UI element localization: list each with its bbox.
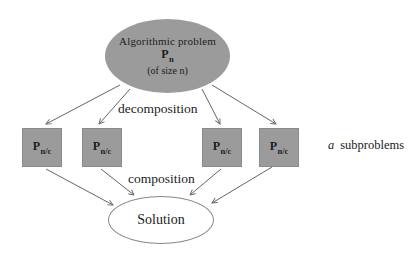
subproblem-node-1: Pn/c bbox=[22, 128, 62, 167]
subproblem-symbol-subscript: n/c bbox=[220, 146, 231, 156]
algorithmic-problem-node: Algorithmic problem Pn (of size n) bbox=[105, 19, 230, 93]
decomposition-arrow-3 bbox=[202, 89, 220, 124]
composition-arrow-4 bbox=[212, 167, 272, 203]
decomposition-label: decomposition bbox=[118, 101, 198, 117]
problem-title: Algorithmic problem bbox=[119, 36, 216, 48]
problem-size-note: (of size n) bbox=[147, 66, 188, 77]
divide-and-conquer-diagram: Algorithmic problem Pn (of size n) decom… bbox=[0, 0, 416, 256]
subproblem-count-text: subproblems bbox=[340, 138, 404, 152]
subproblem-symbol: Pn/c bbox=[270, 140, 289, 156]
composition-arrow-1 bbox=[46, 169, 113, 205]
subproblem-symbol: Pn/c bbox=[213, 140, 232, 156]
subproblem-symbol-subscript: n/c bbox=[40, 146, 51, 156]
decomposition-arrow-1 bbox=[46, 85, 120, 124]
subproblem-node-4: Pn/c bbox=[259, 128, 299, 167]
subproblem-node-2: Pn/c bbox=[82, 128, 122, 167]
subproblem-symbol-subscript: n/c bbox=[277, 146, 288, 156]
subproblem-symbol: Pn/c bbox=[33, 140, 52, 156]
problem-symbol: Pn bbox=[161, 48, 174, 64]
subproblem-symbol-subscript: n/c bbox=[100, 146, 111, 156]
subproblem-count-note: asubproblems bbox=[328, 138, 404, 153]
subproblem-symbol: Pn/c bbox=[93, 140, 112, 156]
decomposition-arrow-4 bbox=[212, 85, 276, 124]
solution-node: Solution bbox=[108, 196, 214, 244]
problem-symbol-subscript: n bbox=[169, 54, 174, 64]
subproblem-count-symbol: a bbox=[328, 138, 334, 152]
solution-label: Solution bbox=[137, 212, 184, 228]
composition-label: composition bbox=[128, 171, 195, 187]
subproblem-node-3: Pn/c bbox=[202, 128, 242, 167]
